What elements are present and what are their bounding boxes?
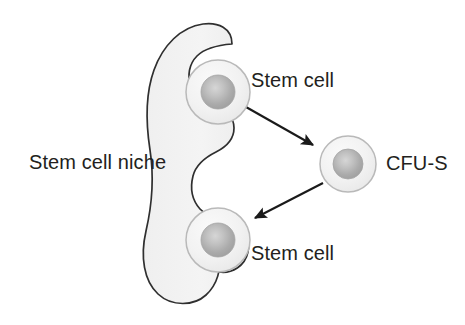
stem-cell-top-nucleus (201, 75, 235, 109)
arrow-stem-cell-to-cfu-s (246, 107, 313, 145)
cfu-s-label: CFU-S (386, 153, 448, 173)
stem-cell-bottom-cell (186, 208, 250, 272)
stem-cell-bottom-nucleus (201, 223, 235, 257)
stem-cell-niche-label: Stem cell niche (29, 152, 166, 172)
stem-cell-top-cell (186, 60, 250, 124)
cfu-s-nucleus (333, 149, 363, 179)
cfu-s-cell (320, 136, 376, 192)
stem-cell-top-label: Stem cell (251, 70, 334, 90)
arrow-cfu-s-to-stem-cell (255, 183, 323, 218)
stem-cell-niche-diagram: Stem cell niche Stem cell Stem cell CFU-… (0, 0, 465, 325)
stem-cell-bottom-label: Stem cell (251, 243, 334, 263)
